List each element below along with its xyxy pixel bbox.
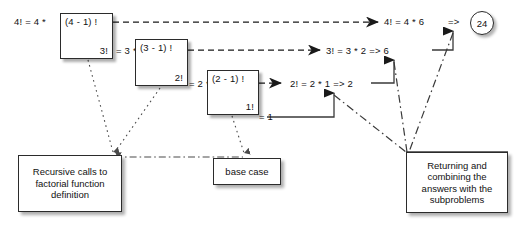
return-arrow-group [267,31,453,117]
diagram-canvas: 4! = 4 * = 3 * = 2 * = 1 (4 - 1) ! 3! (3… [0,0,530,233]
call-frame-4[interactable]: (4 - 1) ! 3! [60,13,113,59]
call-frame-3-result: 2! [175,72,183,83]
call-frame-4-expression: (4 - 1) ! [61,16,112,27]
leader-return4-to-note [409,33,453,152]
note-base-case[interactable]: base case [213,158,281,185]
return-label-3: 3! = 3 * 2 => 6 [326,45,389,56]
return-label-2: 2! = 2 * 1 => 2 [290,78,353,89]
leader-frame3-to-note [115,88,160,152]
call-label-4: 4! = 4 * [14,16,46,27]
final-result-circle: 24 [470,11,494,35]
call-frame-2-expression: (2 - 1) ! [208,73,258,84]
call-label-3: = 3 * [116,45,137,56]
call-frame-2[interactable]: (2 - 1) ! 1! [207,70,259,115]
call-frame-3-expression: (3 - 1) ! [136,42,187,53]
note-returning-combining[interactable]: Returning and combining the answers with… [406,152,508,213]
final-arrow-text: => [448,16,460,27]
return-label-4: 4! = 4 * 6 [384,16,424,27]
call-frame-4-result: 3! [100,45,108,56]
return-connector-2 [371,60,394,83]
call-frame-3[interactable]: (3 - 1) ! 2! [135,39,188,86]
leader-frame4-to-note [88,60,113,152]
call-label-1: = 1 [259,111,273,122]
base-case-leader-group [115,116,244,157]
call-frame-2-result: 1! [246,101,254,112]
return-connector-1 [267,93,334,117]
note-recursive-calls[interactable]: Recursive calls to factorial function de… [18,155,122,212]
leader-frame2-to-basecase [232,116,244,153]
return-connector-3 [432,31,453,50]
leader-return3-to-note [394,62,407,152]
leader-return2-to-note [334,95,406,152]
